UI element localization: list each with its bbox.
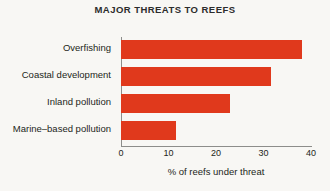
x-tick-0: 0 — [118, 148, 123, 158]
bar-marine-based-pollution — [121, 121, 176, 140]
y-axis-labels: Overfishing Coastal development Inland p… — [0, 0, 115, 191]
x-axis-ticks: 0 10 20 30 40 — [0, 148, 330, 162]
chart-figure: MAJOR THREATS TO REEFS Overfishing Coast… — [0, 0, 330, 191]
y-axis-label-marine-based-pollution: Marine–based pollution — [13, 123, 111, 134]
x-tick-30: 30 — [258, 148, 268, 158]
plot-area — [121, 37, 311, 146]
x-axis-line — [121, 146, 312, 147]
bar-coastal-development — [121, 67, 271, 86]
x-tick-10: 10 — [163, 148, 173, 158]
x-tick-20: 20 — [211, 148, 221, 158]
y-axis-label-overfishing: Overfishing — [63, 42, 111, 53]
y-axis-label-inland-pollution: Inland pollution — [47, 96, 111, 107]
x-tick-40: 40 — [306, 148, 316, 158]
y-axis-label-coastal-development: Coastal development — [22, 69, 111, 80]
bar-overfishing — [121, 40, 302, 59]
x-axis-title: % of reefs under threat — [121, 166, 311, 177]
bar-inland-pollution — [121, 94, 230, 113]
